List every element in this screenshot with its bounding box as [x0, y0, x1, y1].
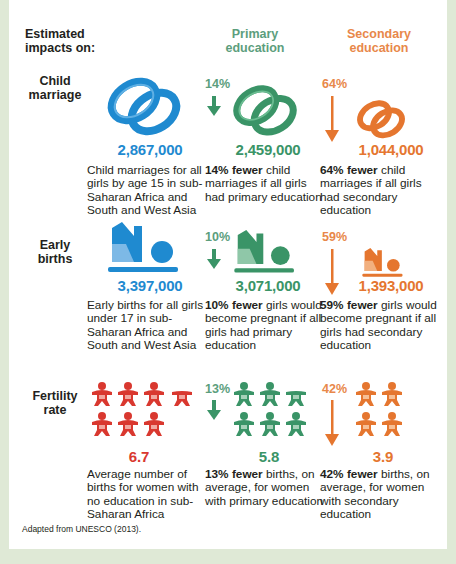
arrow-down-icon — [325, 249, 339, 295]
row-label-line2: marriage — [23, 88, 87, 102]
baby-icon — [232, 380, 312, 440]
baseline-desc-early-births: Early births for all girls under 17 in s… — [87, 299, 209, 352]
primary-pct-early-births: 10% — [205, 230, 230, 244]
baseline-desc-fertility: Average number of births for women with … — [87, 468, 209, 521]
row-label-fertility-rate: Fertility rate — [23, 389, 87, 417]
source-credit: Adapted from UNESCO (2013). — [22, 524, 141, 534]
secondary-value-child-marriage: 1,044,000 — [350, 141, 432, 158]
primary-desc-bold: 10% fewer — [205, 298, 263, 312]
row-label-line1: Fertility — [23, 389, 87, 403]
primary-pct-child-marriage: 14% — [205, 77, 230, 91]
rings-icon — [104, 74, 184, 138]
header-secondary-line2: education — [344, 41, 414, 55]
secondary-value-fertility: 3.9 — [358, 448, 408, 465]
header-estimated-impacts: Estimated impacts on: — [25, 27, 95, 55]
primary-pct-fertility: 13% — [205, 382, 230, 396]
primary-desc-child-marriage: 14% fewer child marriages if all girls h… — [205, 164, 327, 204]
secondary-desc-bold: 59% fewer — [320, 298, 378, 312]
primary-value-early-births: 3,071,000 — [224, 277, 312, 294]
baby-icon — [90, 380, 202, 440]
header-primary-education: Primary education — [224, 27, 286, 55]
secondary-pct-child-marriage: 64% — [322, 77, 347, 91]
header-secondary-education: Secondary education — [344, 27, 414, 55]
secondary-desc-fertility: 42% fewer births, on average, for women … — [320, 468, 442, 521]
secondary-pct-early-births: 59% — [322, 230, 347, 244]
baseline-desc-child-marriage: Child marriages for all girls by age 15 … — [87, 164, 209, 217]
baseline-value-fertility: 6.7 — [114, 448, 164, 465]
arrow-down-icon — [325, 400, 339, 446]
secondary-value-early-births: 1,393,000 — [350, 277, 432, 294]
row-label-line2: rate — [23, 403, 87, 417]
secondary-desc-bold: 64% fewer — [320, 163, 378, 177]
primary-desc-bold: 13% fewer — [205, 467, 263, 481]
rings-icon — [355, 98, 407, 140]
secondary-desc-early-births: 59% fewer girls would become pregnant if… — [320, 299, 442, 352]
baby-lying-icon — [362, 248, 404, 279]
secondary-pct-fertility: 42% — [322, 382, 347, 396]
header-estimated-line2: impacts on: — [25, 41, 95, 55]
row-label-line1: Child — [23, 74, 87, 88]
header-secondary-line1: Secondary — [344, 27, 414, 41]
header-primary-line2: education — [224, 41, 286, 55]
secondary-desc-bold: 42% fewer — [320, 467, 378, 481]
row-label-early-births: Early births — [23, 238, 87, 266]
baseline-value-early-births: 3,397,000 — [104, 277, 196, 294]
arrow-down-icon — [207, 96, 221, 116]
row-label-line2: births — [23, 252, 87, 266]
rings-icon — [230, 82, 300, 138]
arrow-down-icon — [207, 400, 221, 420]
header-estimated-line1: Estimated — [25, 27, 95, 41]
arrow-down-icon — [207, 249, 221, 269]
baseline-value-child-marriage: 2,867,000 — [104, 141, 196, 158]
secondary-desc-child-marriage: 64% fewer child marriages if all girls h… — [320, 164, 442, 217]
primary-desc-fertility: 13% fewer births, on average, for women … — [205, 468, 327, 508]
header-primary-line1: Primary — [224, 27, 286, 41]
baby-lying-icon — [108, 222, 180, 276]
row-label-line1: Early — [23, 238, 87, 252]
arrow-down-icon — [325, 96, 339, 142]
primary-desc-bold: 14% fewer — [205, 163, 263, 177]
row-label-child-marriage: Child marriage — [23, 74, 87, 102]
baby-icon — [354, 380, 410, 440]
primary-value-fertility: 5.8 — [244, 448, 294, 465]
primary-desc-early-births: 10% fewer girls would become pregnant if… — [205, 299, 327, 352]
primary-value-child-marriage: 2,459,000 — [224, 141, 312, 158]
baby-lying-icon — [234, 230, 296, 276]
